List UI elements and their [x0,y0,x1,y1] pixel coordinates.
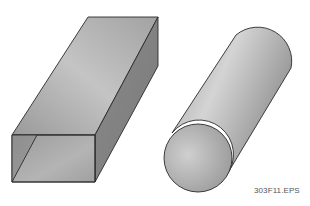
figure-canvas [0,0,310,206]
figure-caption: 303F11.EPS [254,186,300,195]
cylinder-end-cap [164,124,232,192]
cylinder [164,27,292,192]
rectangular-box [12,17,158,182]
